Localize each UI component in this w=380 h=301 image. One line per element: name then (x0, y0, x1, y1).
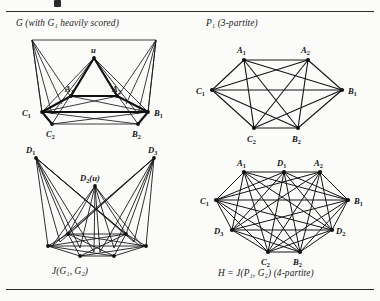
vertex-label-B1: B1 (353, 196, 363, 207)
figure-graph-H: A1 D1 A2 C1 B1 D3 D2 C2 B2 (196, 158, 376, 266)
bottom-rule (6, 289, 374, 290)
figure-graph-P1: A1 A2 C1 B1 C2 B2 (196, 38, 376, 144)
caption-graph-H: H = J(P₁, G₂) (4-partite) (218, 268, 314, 278)
vertex-label-C1: C1 (22, 108, 31, 119)
vertex-label-B2: B2 (292, 257, 302, 268)
vertex-label-A1: A1 (64, 84, 74, 95)
top-rule (6, 11, 374, 12)
vertex-label-C2: C2 (247, 134, 256, 145)
vertex-label-B1: B1 (153, 108, 163, 119)
figure-graph-G: u A1 A2 C1 B1 C2 B2 (8, 34, 188, 144)
vertex-label-D2u: D2(u) (79, 173, 100, 184)
vertex-label-D3: D3 (147, 145, 157, 156)
vertex-label-C2: C2 (261, 257, 270, 268)
vertex-label-u: u (91, 45, 96, 55)
figure-page: G (with G₁ heavily scored) (0, 0, 380, 301)
vertex-label-A2: A2 (300, 45, 310, 56)
vertex-label-A1: A1 (236, 45, 246, 56)
vertex-label-D2: D2 (335, 226, 345, 237)
vertex-label-D3: D3 (213, 226, 223, 237)
caption-graph-JG1G2: J(G₁, G₂) (52, 266, 88, 276)
vertex-label-C2: C2 (46, 129, 55, 140)
vertex-label-C1: C1 (196, 86, 205, 97)
cropped-glyph-fragment (54, 0, 61, 7)
vertex-label-B1: B1 (347, 86, 357, 97)
vertex-label-A2: A2 (313, 158, 323, 169)
vertex-label-D1: D1 (276, 158, 286, 169)
vertex-label-B2: B2 (131, 129, 141, 140)
vertex-label-A1: A1 (236, 158, 246, 169)
caption-graph-P1: P₁ (3-partite) (206, 18, 258, 28)
vertex-label-A2: A2 (111, 84, 121, 95)
vertex-label-D1: D1 (25, 145, 35, 156)
vertex-label-B2: B2 (291, 134, 301, 145)
caption-graph-G: G (with G₁ heavily scored) (16, 18, 119, 28)
figure-graph-JG1G2: D1 D3 D2(u) (8, 142, 188, 270)
vertex-label-C1: C1 (200, 196, 209, 207)
